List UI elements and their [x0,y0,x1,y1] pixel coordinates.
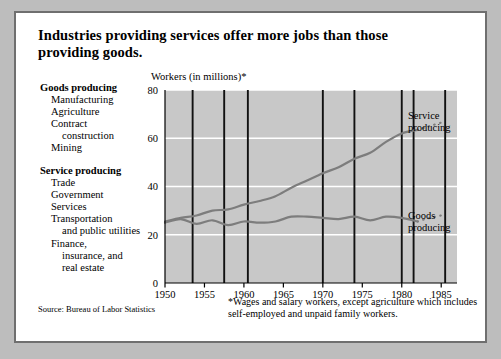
series-label-goods-line1: Goods [408,210,451,222]
chart-page: Industries providing services offer more… [0,0,501,359]
series-label-goods-producing: Goods producing [408,210,451,234]
y-tick-label-40: 40 [148,181,159,192]
source-note: Source: Bureau of Labor Statistics [38,304,155,314]
series-label-service-producing: Service producing [408,110,451,134]
y-tick-label-20: 20 [148,230,159,241]
y-tick-label-80: 80 [148,85,159,96]
y-tick-label-0: 0 [153,278,158,289]
chart-card: Industries providing services offer more… [14,11,487,343]
series-label-goods-line2: producing [408,222,451,234]
series-label-service-line1: Service [408,110,451,122]
x-tick-label-1955: 1955 [194,289,215,300]
x-tick-label-1950: 1950 [155,289,176,300]
y-tick-label-60: 60 [148,133,159,144]
footnote: *Wages and salary workers, except agricu… [228,296,478,320]
series-label-service-line2: producing [408,122,451,134]
